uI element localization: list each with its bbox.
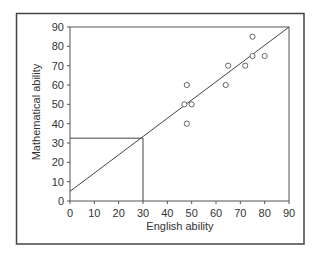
x-tick-label: 80 [259,207,271,219]
data-point-marker [226,63,231,68]
y-tick-label: 40 [52,118,64,130]
y-tick-label: 60 [52,79,64,91]
scatter-chart: 0102030405060708090 0102030405060708090 … [0,0,319,259]
plot-border [70,27,289,201]
y-tick-label: 0 [58,195,64,207]
x-tick-label: 30 [137,207,149,219]
data-point-marker [184,82,189,87]
data-point-marker [243,63,248,68]
y-tick-label: 30 [52,137,64,149]
x-axis-title: English ability [146,220,214,232]
data-point-marker [182,102,187,107]
data-point-marker [262,53,267,58]
y-axis-title: Mathematical ability [30,63,42,160]
data-point-marker [250,53,255,58]
y-tick-label: 20 [52,156,64,168]
y-tick-label: 90 [52,21,64,33]
x-tick-label: 70 [234,207,246,219]
x-tick-label: 0 [67,207,73,219]
y-tick-label: 80 [52,40,64,52]
x-tick-label: 50 [186,207,198,219]
y-tick-label: 70 [52,60,64,72]
data-point-marker [250,34,255,39]
regression-line [70,27,289,191]
x-tick-label: 60 [210,207,222,219]
data-point-marker [184,121,189,126]
y-tick-label: 10 [52,176,64,188]
x-tick-label: 10 [88,207,100,219]
x-tick-label: 20 [113,207,125,219]
x-tick-label: 90 [283,207,295,219]
y-axis-ticks: 0102030405060708090 [52,21,70,207]
data-point-marker [189,102,194,107]
x-axis-ticks: 0102030405060708090 [67,201,295,219]
data-point-marker [223,82,228,87]
y-tick-label: 50 [52,98,64,110]
plot-area [70,27,289,201]
data-points [182,34,268,126]
x-tick-label: 40 [161,207,173,219]
